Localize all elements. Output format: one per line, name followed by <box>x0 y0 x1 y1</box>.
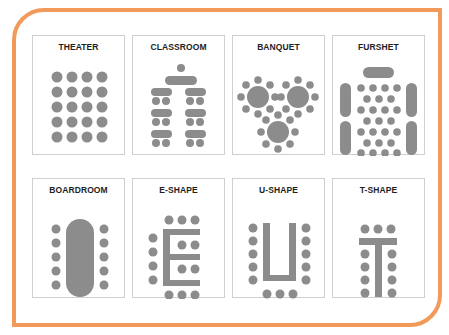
panel-t-shape: T-SHAPE <box>332 178 425 298</box>
panel-furshet: FURSHET <box>332 35 425 155</box>
boardroom-seating-icon <box>33 179 126 299</box>
furshet-seating-icon <box>333 36 426 156</box>
panel-boardroom: BOARDROOM <box>32 178 125 298</box>
t-shape-seating-icon <box>333 179 426 299</box>
panel-e-shape: E-SHAPE <box>132 178 225 298</box>
theater-seating-icon <box>33 36 126 156</box>
u-shape-seating-icon <box>233 179 326 299</box>
e-shape-seating-icon <box>133 179 226 299</box>
classroom-seating-icon <box>133 36 226 156</box>
panel-u-shape: U-SHAPE <box>232 178 325 298</box>
panel-classroom: CLASSROOM <box>132 35 225 155</box>
panel-banquet: BANQUET <box>232 35 325 155</box>
banquet-seating-icon <box>233 36 326 156</box>
panel-theater: THEATER <box>32 35 125 155</box>
